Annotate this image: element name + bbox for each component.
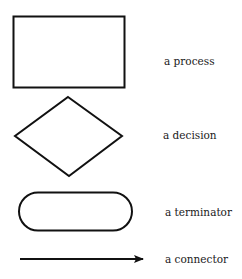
process-label: a process: [164, 56, 215, 67]
terminator-label: a terminator: [165, 207, 232, 218]
connector-label: a connector: [165, 254, 228, 265]
terminator-shape-icon: [19, 193, 132, 231]
decision-shape-icon: [15, 97, 122, 176]
decision-label: a decision: [163, 130, 217, 141]
process-shape-icon: [14, 17, 125, 88]
